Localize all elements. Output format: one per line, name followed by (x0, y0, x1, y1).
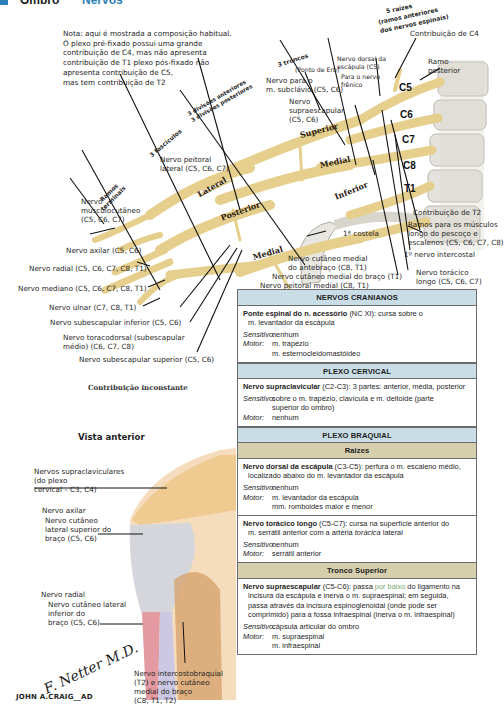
label-line: escápula (C5) (337, 63, 386, 71)
label-c4-contribution: Contribuição de C4 (410, 29, 479, 38)
label-line: lateral (C5, C6, C7) (160, 164, 229, 173)
sensitivo-line: superior do ombro) (272, 403, 471, 413)
entry-name: Nervo supraescapular (243, 582, 321, 591)
label-ulnar: Nervo ulnar (C7, C8, T1) (49, 303, 136, 312)
label-longo-pescoco: Ramos para os músculos longo do pescoço … (408, 220, 504, 247)
label-line: Nervo peitoral (160, 155, 229, 164)
entry-acessorio: Ponte espinal do n. acessório (NC XI): c… (238, 306, 476, 363)
entry-text: (C5-C6): passa (321, 582, 375, 591)
label-line: Para o nervo (341, 73, 380, 81)
label-peitoral-lateral: Nervo peitoral lateral (C5, C6, C7) (160, 155, 229, 173)
label-line: medial do braço (134, 687, 223, 696)
sensitivo-label: Sensitivo: (243, 330, 272, 340)
label-frenico: Para o nervo frênico (341, 73, 380, 88)
label-line: do antebraço (C8, T1) (288, 263, 367, 272)
label-subescapular-superior: Nervo subescapular superior (C5, C6) (79, 355, 214, 364)
entry-name: Nervo supraclavicular (243, 382, 320, 391)
vertebra-c5: C5 (399, 82, 412, 93)
entry-toracico-longo: Nervo torácico longo (C5-C7): cursa na s… (238, 516, 476, 563)
motor-row: Motor:m. levantador da escápulamm. rombo… (243, 493, 471, 512)
label-radial-anterior: Nervo radial (41, 590, 85, 599)
sensitivo-line: sobre o m. trapézio, clavícula e m. delt… (272, 394, 471, 404)
label-line: (T2) e nervo cutâneo (134, 678, 223, 687)
label-line: Nervo dorsal da (337, 55, 386, 63)
label-line: musculocutâneo (81, 206, 140, 215)
section-header-braquial: PLEXO BRAQUIAL (238, 427, 476, 444)
motor-label: Motor: (243, 339, 272, 358)
entry-supraclavicular: Nervo supraclavicular (C2-C3): 3 partes:… (238, 379, 476, 426)
motor-row: Motor:nenhum (243, 413, 471, 423)
entry-name: Ponte espinal do n. acessório (243, 309, 347, 318)
entry-text: m. serrátil anterior com a artéria torác… (243, 528, 471, 538)
sensitivo-row: Sensitivo:nenhum (243, 483, 471, 493)
label-line: m. subclávio (C5, C6) (266, 85, 343, 94)
subsection-header-raizes: Raizes (238, 443, 476, 459)
entry-text: localizado abaixo do m. levantador da es… (243, 471, 471, 481)
label-intercostobraquial: Nervo intercostobraquial (T2) e nervo cu… (134, 669, 223, 705)
anterior-view-title: Vista anterior (78, 432, 145, 442)
motor-item: m. supraespinal (272, 632, 471, 642)
label-line: Nervo cutâneo (45, 516, 111, 525)
label-ponto-erb: (Ponto de Erb) (295, 66, 339, 74)
entry-text: (C3-C5): perfura o m. escaleno médio, (333, 462, 461, 471)
motor-row: Motor:m. trapéziom. esternocleidomastóid… (243, 339, 471, 358)
label-line: Nervo cutâneo medial (288, 254, 367, 263)
sensitivo-row: Sensitivo:sobre o m. trapézio, clavícula… (243, 394, 471, 413)
motor-label: Motor: (243, 413, 272, 423)
label-subclavio: Nervo para o m. subclávio (C5, C6) (266, 76, 343, 94)
sensitivo-value: cápsula articular do ombro (272, 622, 471, 632)
label-intercostal: 1º nervo intercostal (404, 250, 475, 259)
motor-item: m. trapézio (272, 339, 471, 349)
label-axilar-anterior: Nervo axilar (42, 506, 86, 515)
artist-credit: JOHN A.CRAIG__AD (16, 693, 93, 701)
sensitivo-value: nenhum (272, 330, 471, 340)
entry-description: Ponte espinal do n. acessório (NC XI): c… (243, 309, 471, 328)
entry-name: Nervo dorsal da escápula (243, 462, 333, 471)
sensitivo-value: sobre o m. trapézio, clavícula e m. delt… (272, 394, 471, 413)
entry-description: Nervo torácico longo (C5-C7): cursa na s… (243, 519, 471, 538)
label-supraescapular: Nervo supraescapular (C5, C6) (289, 97, 344, 124)
motor-value: m. supraespinalm. infraespinal (272, 632, 471, 651)
entry-description: Nervo supraclavicular (C2-C3): 3 partes:… (243, 382, 471, 392)
motor-item: mm. romboides maior e menor (272, 502, 471, 512)
section-header-cervical: PLEXO CERVICAL (238, 363, 476, 380)
entry-description: Nervo dorsal da escápula (C3-C5): perfur… (243, 462, 471, 481)
label-cutaneo-inferior: Nervo cutâneo lateral inferior do braço … (48, 600, 126, 627)
motor-label: Motor: (243, 632, 272, 651)
label-line: longo do pescoço e (408, 229, 504, 238)
label-subescapular-inferior: Nervo subescapular inferior (C5, C6) (50, 318, 181, 327)
sensitivo-label: Sensitivo: (243, 540, 272, 550)
label-line: Nervo toracodorsal (subescapular (63, 333, 185, 342)
label-line: Ramos para os músculos (408, 220, 504, 229)
label-line: (C8, T1, T2) (134, 696, 223, 705)
label-line: (C5, C6) (289, 115, 344, 124)
entry-text: do ligamento na (405, 582, 460, 591)
entry-name: Nervo torácico longo (243, 519, 317, 528)
label-t2-contribution: Contribuição de T2 (413, 208, 481, 217)
motor-row: Motor:serrátil anterior (243, 549, 471, 559)
sensitivo-row: Sensitivo:nenhum (243, 540, 471, 550)
sensitivo-value: nenhum (272, 540, 471, 550)
label-line: Nervo cutâneo lateral (48, 600, 126, 609)
label-line: Nervo (289, 97, 344, 106)
label-line: Nervo intercostobraquial (134, 669, 223, 678)
sensitivo-row: Sensitivo:cápsula articular do ombro (243, 622, 471, 632)
motor-item: m. esternocleidomastóideo (272, 349, 471, 359)
label-line: médio) (C6, C7, C8) (63, 342, 185, 351)
label-toracico-longo: Nervo torácico longo (C5, C6, C7) (416, 268, 482, 286)
entry-text: passa através da incisura espinoglenoida… (243, 601, 471, 611)
inconstant-contribution-caption: Contribuição inconstante (88, 383, 188, 392)
label-line: cervical – C3, C4) (34, 485, 124, 494)
label-dorsal-escapula: Nervo dorsal da escápula (C5) (337, 55, 386, 70)
entry-text-highlight: por baixo (375, 582, 405, 591)
label-line: (do plexo (34, 476, 124, 485)
label-radial: Nervo radial (C5, C6, C7, C8, T1) (29, 264, 147, 273)
label-line: longo (C5, C6, C7) (416, 277, 482, 286)
entry-text: comprimido) para a fossa infraespinal (i… (243, 610, 471, 620)
entry-text-part: m. serrátil anterior com a artéria (248, 528, 355, 537)
sensitivo-label: Sensitivo: (243, 394, 272, 413)
label-line: posterior (428, 66, 460, 75)
label-cutaneo-braco: Nervo cutâneo medial do braço (T1) (272, 272, 402, 281)
label-line: braço (C5, C6) (48, 618, 126, 627)
subsection-header-tronco-superior: Tronco Superior (238, 563, 476, 579)
